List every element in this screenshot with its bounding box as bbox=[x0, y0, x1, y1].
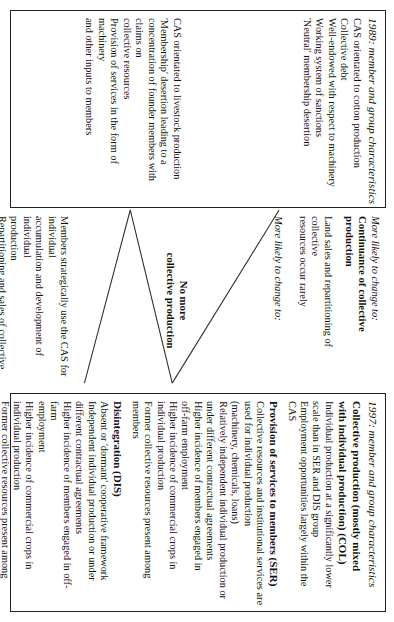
section-dis-line-7: Former collective resources present amon… bbox=[0, 401, 11, 605]
section-ser-line-10: members bbox=[129, 401, 141, 605]
center-label-line1: No more bbox=[177, 253, 190, 349]
section-ser-line-5: Higher incidence of members engaged in bbox=[191, 401, 203, 605]
section-ser: Provision of services to members (SER) C… bbox=[129, 401, 280, 605]
section-col-line-0: Individual production at a significantly… bbox=[322, 401, 334, 605]
section-dis-line-0: Absent or 'dormant' cooperative framewor… bbox=[98, 401, 110, 605]
section-col-heading-line1: Collective production (mostly mixed bbox=[350, 401, 363, 605]
transition-top-body-line2: resources occur rarely bbox=[296, 216, 308, 385]
section-dis-line-6: individual production bbox=[11, 401, 23, 605]
column-1989: 1989: member and group characteristics C… bbox=[10, 10, 386, 208]
line-1989-2: Well-endowed with respect to machinery bbox=[326, 18, 338, 201]
section-ser-line-9: Former collective resources present amon… bbox=[142, 401, 154, 605]
section-ser-line-4: under different contractual agreements bbox=[204, 401, 216, 605]
rotated-figure-frame: 1989: member and group characteristics C… bbox=[0, 0, 394, 622]
line-1989-5: CAS orientated to livestock production bbox=[170, 18, 182, 201]
transition-second-lead: More likely to change to: bbox=[272, 216, 284, 385]
line-1989-10: and other inputs to members bbox=[83, 18, 95, 201]
section-col: Collective production (mostly mixed with… bbox=[285, 401, 363, 605]
line-1989-9: Provision of services in the form of mac… bbox=[95, 18, 120, 201]
center-label-line2: collective production bbox=[164, 253, 177, 349]
section-dis: Disintegration (DIS) Absent or 'dormant'… bbox=[0, 401, 124, 605]
comparison-table: 1989: member and group characteristics C… bbox=[0, 0, 394, 622]
section-ser-line-7: Higher incidence of commercial crops in bbox=[167, 401, 179, 605]
section-dis-line-4: employment bbox=[35, 401, 47, 605]
transition-bottom-line-2: production bbox=[8, 216, 20, 385]
section-ser-line-1: used for individual production bbox=[241, 401, 253, 605]
column-1989-title: 1989: member and group characteristics bbox=[366, 18, 380, 201]
section-ser-heading: Provision of services to members (SER) bbox=[267, 401, 280, 605]
section-dis-line-1: Independent individual production or und… bbox=[85, 401, 97, 605]
line-1989-0: CAS orientated to cotton production bbox=[350, 18, 362, 201]
transition-block-bottom: Members strategically use the CAS for in… bbox=[0, 216, 70, 385]
section-dis-line-3: Higher incidence of members engaged in o… bbox=[48, 401, 73, 605]
transition-block-top: More likely to change to: Continuance of… bbox=[272, 216, 381, 385]
section-dis-line-2: different contractual agreements bbox=[73, 401, 85, 605]
line-1989-6: 'Membership' desertion leading to a bbox=[158, 18, 170, 201]
transition-bottom-line-0: Members strategically use the CAS for in… bbox=[45, 216, 70, 385]
section-dis-heading: Disintegration (DIS) bbox=[111, 401, 124, 605]
transition-top-strong-line1: Continuance of collective bbox=[356, 216, 369, 385]
transition-top-strong-line2: production bbox=[343, 216, 356, 385]
section-ser-line-8: individual production bbox=[154, 401, 166, 605]
transition-top-body-line1: Land sales and repartitioning of collect… bbox=[309, 216, 334, 385]
line-1989-3: Working system of sanctions bbox=[313, 18, 325, 201]
section-col-line-1: scale than in SER and DIS group bbox=[310, 401, 322, 605]
section-col-line-2: Employment opportunities largely within … bbox=[285, 401, 310, 605]
no-more-collective-production-label: No more collective production bbox=[164, 253, 190, 349]
section-col-heading-line2: with individual production) (COL) bbox=[336, 401, 349, 605]
line-1989-7: concentration of founder members with cl… bbox=[133, 18, 158, 201]
line-1989-8: collective resources bbox=[120, 18, 132, 201]
section-ser-line-6: off-farm employment bbox=[179, 401, 191, 605]
column-1997-title: 1997: member and group characteristics bbox=[366, 401, 380, 605]
section-ser-line-0: Collective resources and institutional s… bbox=[254, 401, 266, 605]
transition-top-lead: More likely to change to: bbox=[369, 216, 381, 385]
section-ser-line-3: Relatively independent individual produc… bbox=[216, 401, 228, 605]
column-1997: 1997: member and group characteristics C… bbox=[10, 393, 386, 612]
transition-bottom-line-3: Repartitioning and sales of collective l… bbox=[0, 216, 8, 385]
section-ser-line-2: (machinery, chemicals, loans) bbox=[229, 401, 241, 605]
line-1989-1: Collective debt bbox=[338, 18, 350, 201]
column-transitions: More likely to change to: Continuance of… bbox=[10, 208, 386, 393]
section-dis-line-5: Higher incidence of commercial crops in bbox=[23, 401, 35, 605]
line-1989-4: 'Neutral' membership desertion bbox=[301, 18, 313, 201]
transition-bottom-line-1: accumulation and development of individu… bbox=[20, 216, 45, 385]
